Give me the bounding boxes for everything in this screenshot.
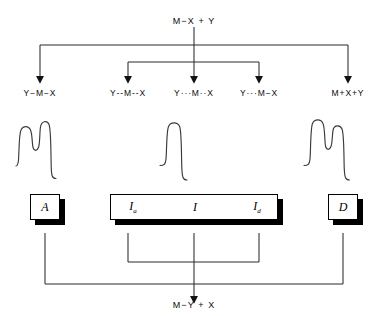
box-D-body: D bbox=[328, 194, 358, 220]
trace-path-left bbox=[16, 122, 56, 179]
box-A-body: A bbox=[30, 194, 60, 220]
box-I-center-segment-label: I bbox=[193, 200, 197, 215]
node-label-2: Y‑‑M‑‑X bbox=[110, 88, 146, 99]
box-A-label: A bbox=[41, 200, 48, 215]
box-I-right-segment-label: Id bbox=[253, 199, 261, 215]
top-reaction-label: M−X + Y bbox=[173, 16, 216, 27]
node-label-5: M+X+Y bbox=[332, 88, 365, 99]
connector-lines bbox=[0, 0, 388, 316]
box-A: A bbox=[30, 194, 60, 220]
node-label-3: Y···M··X bbox=[174, 88, 214, 99]
box-D: D bbox=[328, 194, 358, 220]
trace-path-right bbox=[304, 120, 349, 180]
bottom-reaction-label: M−Y + X bbox=[173, 300, 216, 311]
node-label-1: Y−M−X bbox=[24, 88, 57, 99]
box-I-left-segment-label: Ia bbox=[129, 199, 137, 215]
node-label-4: Y···M−X bbox=[240, 88, 278, 99]
box-I: Ia I Id bbox=[110, 194, 278, 220]
diagram-canvas: M−X + Y Y−M−X Y‑‑M‑‑X Y···M··X Y···M−X M… bbox=[0, 0, 388, 316]
trace-path-center bbox=[160, 123, 187, 180]
box-D-label: D bbox=[339, 200, 348, 215]
box-I-body: Ia I Id bbox=[110, 194, 278, 220]
